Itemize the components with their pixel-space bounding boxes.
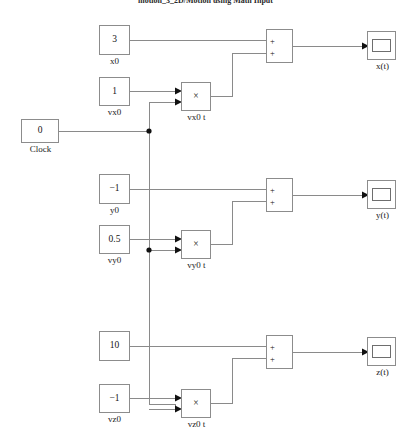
- scope-block-z[interactable]: [367, 337, 396, 366]
- sum-sign-y-2: +: [270, 198, 275, 207]
- sum-block-z[interactable]: + +: [266, 335, 293, 369]
- wire-clock-to-vz0t: [149, 404, 175, 409]
- constant-value-z0: 10: [110, 341, 120, 351]
- constant-block-y0[interactable]: −1: [99, 174, 130, 204]
- block-label-vz0: vz0: [84, 415, 145, 424]
- sum-sign-x-2: +: [270, 49, 275, 58]
- constant-block-x0[interactable]: 3: [99, 25, 130, 55]
- block-label-scope-y: y(t): [352, 211, 411, 220]
- constant-value-vz0: −1: [109, 394, 119, 404]
- junction-clock-x: [146, 128, 151, 133]
- constant-block-vx0[interactable]: 1: [99, 77, 130, 106]
- block-label-x0: x0: [84, 57, 145, 66]
- wire-vx0t-to-sum: [211, 53, 268, 96]
- scope-block-y[interactable]: [367, 180, 396, 209]
- block-label-vy0t: vy0 t: [166, 261, 227, 270]
- scope-screen-icon: [372, 345, 391, 358]
- block-diagram-canvas: motion_3_2D/Motion using Math Input: [0, 0, 411, 446]
- product-block-vx0t[interactable]: ×: [181, 82, 211, 111]
- clock-value: 0: [38, 126, 43, 136]
- sum-sign-z-1: +: [270, 343, 275, 352]
- junction-clock-y: [146, 247, 151, 252]
- block-label-vy0: vy0: [84, 256, 145, 265]
- sum-block-x[interactable]: + +: [266, 29, 293, 63]
- block-label-vx0t: vx0 t: [166, 113, 227, 122]
- product-block-vz0t[interactable]: ×: [181, 389, 211, 418]
- signal-wires: [0, 0, 411, 446]
- scope-screen-icon: [372, 39, 391, 52]
- block-label-scope-z: z(t): [352, 368, 411, 377]
- constant-value-y0: −1: [109, 184, 119, 194]
- clock-block[interactable]: 0: [21, 119, 59, 143]
- product-symbol-vy0t: ×: [193, 240, 198, 250]
- product-block-vy0t[interactable]: ×: [181, 230, 211, 259]
- constant-block-vz0[interactable]: −1: [99, 384, 130, 413]
- product-symbol-vx0t: ×: [193, 92, 198, 102]
- product-symbol-vz0t: ×: [193, 399, 198, 409]
- sum-sign-x-1: +: [270, 37, 275, 46]
- wire-vy0t-to-sum: [211, 201, 268, 244]
- constant-block-z0[interactable]: 10: [99, 331, 130, 361]
- scope-screen-icon: [372, 188, 391, 201]
- scope-block-x[interactable]: [367, 31, 396, 60]
- block-label-y0: y0: [84, 206, 145, 215]
- sum-sign-y-1: +: [270, 186, 275, 195]
- constant-value-x0: 3: [112, 35, 117, 45]
- sum-sign-z-2: +: [270, 355, 275, 364]
- constant-value-vx0: 1: [112, 87, 117, 97]
- wire-vz0t-to-sum: [211, 358, 268, 403]
- block-label-clock: Clock: [10, 145, 71, 154]
- constant-block-vy0[interactable]: 0.5: [99, 225, 130, 254]
- sum-block-y[interactable]: + +: [266, 178, 293, 212]
- constant-value-vy0: 0.5: [109, 235, 121, 245]
- block-label-vx0: vx0: [84, 108, 145, 117]
- block-label-scope-x: x(t): [352, 62, 411, 71]
- block-label-vz0t: vz0 t: [166, 420, 227, 429]
